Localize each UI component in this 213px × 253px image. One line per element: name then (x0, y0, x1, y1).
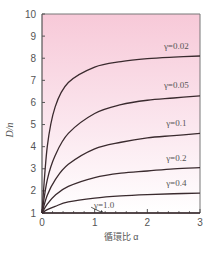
y-tick-label: 7 (30, 75, 36, 86)
curve-label: γ=0.2 (165, 153, 186, 163)
curve-label: γ=0.05 (163, 80, 189, 90)
y-tick-label: 2 (30, 185, 36, 196)
curve-label: γ=0.02 (163, 41, 189, 51)
y-tick-label: 8 (30, 53, 36, 64)
x-tick-label: 3 (197, 217, 203, 228)
x-tick-label: 0 (39, 217, 45, 228)
y-tick-label: 10 (25, 9, 37, 20)
y-axis-label: D/n (4, 123, 15, 139)
x-tick-label: 1 (92, 217, 98, 228)
chart: 123456789100123 γ=0.02γ=0.05γ=0.1γ=0.2γ=… (0, 0, 213, 253)
y-tick-label: 9 (30, 31, 36, 42)
y-tick-label: 5 (30, 119, 36, 130)
y-tick-label: 1 (30, 208, 36, 219)
curve-label: γ=0.1 (165, 118, 186, 128)
y-tick-label: 4 (30, 141, 36, 152)
curve-label: γ=0.4 (165, 178, 187, 188)
curve-label: γ=1.0 (93, 200, 115, 210)
x-axis-label: 循環比 α (104, 231, 139, 242)
y-tick-label: 3 (30, 163, 36, 174)
y-tick-label: 6 (30, 97, 36, 108)
x-tick-label: 2 (145, 217, 151, 228)
